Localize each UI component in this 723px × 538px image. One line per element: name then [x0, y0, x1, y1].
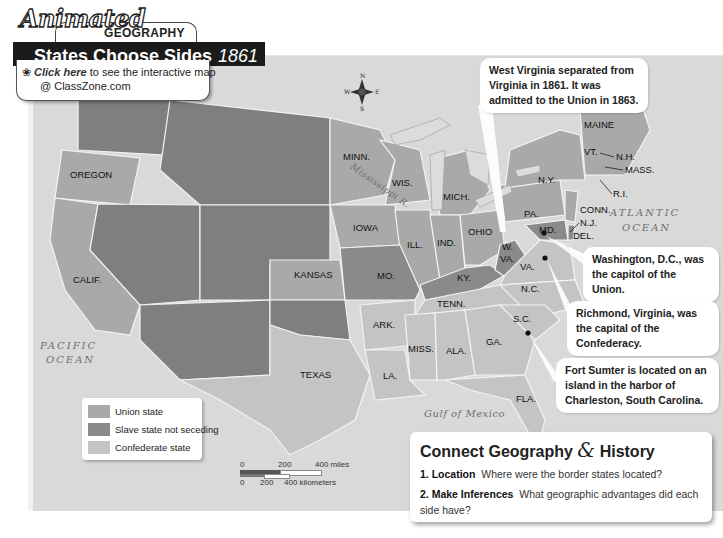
label-fla: FLA.	[516, 393, 536, 404]
mouse-icon: ❀	[22, 66, 31, 78]
label-pa: PA.	[524, 208, 539, 219]
label-minn: MINN.	[343, 151, 370, 162]
label-texas: TEXAS	[300, 369, 331, 380]
label-maine: MAINE	[584, 119, 614, 130]
label-calif: CALIF.	[73, 274, 102, 285]
map-legend: Union state Slave state not seceding Con…	[82, 398, 202, 460]
dakota-territory	[160, 100, 330, 205]
label-mass: MASS.	[625, 164, 655, 175]
fort-sumter-dot	[525, 330, 530, 335]
callout-fort-sumter: Fort Sumter is located on an island in t…	[556, 358, 719, 413]
label-atlantic-2: OCEAN	[622, 222, 671, 233]
label-ark: ARK.	[373, 319, 395, 330]
label-ky: KY.	[457, 272, 471, 283]
label-mich: MICH.	[443, 191, 470, 202]
svg-text:W: W	[344, 88, 351, 95]
label-oregon: OREGON	[70, 169, 112, 180]
connect-geography-history-box: Connect Geography & History 1. Location …	[410, 432, 712, 522]
title-year: 1861	[218, 46, 258, 66]
label-atlantic-1: ATLANTIC	[609, 207, 680, 218]
label-mo: MO.	[377, 270, 395, 281]
legend-union: Union state	[88, 404, 163, 418]
legend-swatch-confederate	[88, 441, 110, 454]
legend-slave-not-seceding: Slave state not seceding	[88, 422, 219, 436]
svg-text:N: N	[360, 72, 365, 79]
legend-swatch-slave	[88, 423, 110, 436]
new-mexico-territory	[140, 300, 270, 380]
label-del: DEL.	[573, 230, 594, 241]
label-wis: WIS.	[392, 177, 413, 188]
question-2: 2. Make Inferences What geographic advan…	[420, 486, 700, 518]
state-washington-territory	[78, 92, 175, 155]
label-ri: R.I.	[613, 188, 628, 199]
label-nj: N.J.	[580, 217, 597, 228]
click-here-link[interactable]: Click here	[34, 66, 87, 78]
lake-superior	[390, 118, 450, 145]
label-wva-1: W.	[502, 241, 513, 252]
compass-rose-icon: N S W E	[344, 72, 380, 112]
label-ind: IND.	[437, 237, 456, 248]
svg-text:S: S	[360, 105, 364, 112]
label-ala: ALA.	[446, 345, 467, 356]
label-nh: N.H.	[616, 151, 635, 162]
label-nc: N.C.	[521, 283, 540, 294]
legend-swatch-union	[88, 405, 110, 418]
question-1: 1. Location Where were the border states…	[420, 466, 662, 482]
label-conn: CONN.	[580, 204, 611, 215]
legend-confederate: Confederate state	[88, 440, 191, 454]
richmond-dot	[542, 255, 547, 260]
label-pacific-1: PACIFIC	[39, 340, 97, 351]
label-tenn: TENN.	[437, 298, 466, 309]
label-pacific-2: OCEAN	[46, 354, 95, 365]
state-new-jersey	[565, 190, 578, 222]
classzone-link[interactable]: @ ClassZone.com	[40, 80, 131, 92]
label-ill: ILL.	[407, 239, 423, 250]
callout-richmond: Richmond, Virginia, was the capital of t…	[567, 301, 719, 356]
section-label: GEOGRAPHY	[104, 26, 185, 40]
label-md: MD.	[539, 224, 556, 235]
label-va: VA.	[520, 261, 535, 272]
interactive-map-link[interactable]: ❀ Click here to see the interactive map	[22, 66, 216, 79]
label-kansas: KANSAS	[294, 269, 333, 280]
state-kansas	[270, 260, 345, 300]
connect-title: Connect Geography & History	[420, 438, 655, 462]
label-la: LA.	[383, 370, 397, 381]
label-gulf-of-mexico: Gulf of Mexico	[424, 408, 505, 419]
label-ohio: OHIO	[468, 226, 492, 237]
label-iowa: IOWA	[353, 222, 379, 233]
label-wva-2: VA.	[500, 253, 515, 264]
label-ny: N.Y.	[538, 174, 555, 185]
label-vt: VT.	[584, 146, 598, 157]
callout-west-virginia: West Virginia separated from Virginia in…	[480, 58, 648, 113]
label-sc: S.C.	[513, 313, 531, 324]
label-miss: MISS.	[408, 343, 434, 354]
label-ga: GA.	[486, 336, 502, 347]
svg-text:E: E	[375, 88, 379, 95]
callout-washington: Washington, D.C., was the capitol of the…	[583, 247, 719, 302]
